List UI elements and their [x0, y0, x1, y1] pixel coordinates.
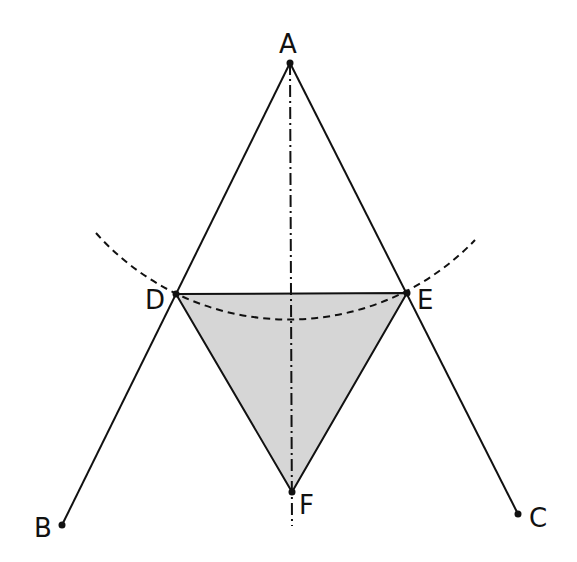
- label-f: F: [299, 490, 314, 520]
- label-d: D: [145, 285, 165, 315]
- diagram-svg: A B C D E F: [0, 0, 577, 562]
- point-a: [287, 60, 294, 67]
- point-b: [59, 522, 66, 529]
- point-e: [404, 290, 411, 297]
- label-b: B: [34, 513, 52, 543]
- point-f: [289, 489, 296, 496]
- geometry-diagram: A B C D E F: [0, 0, 577, 562]
- point-c: [515, 511, 522, 518]
- label-a: A: [279, 29, 297, 59]
- side-ac: [290, 63, 518, 514]
- point-d: [173, 291, 180, 298]
- label-e: E: [417, 285, 433, 315]
- label-c: C: [529, 503, 547, 533]
